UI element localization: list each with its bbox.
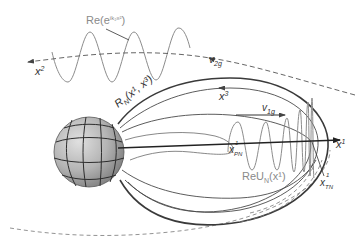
plane-wave-leader [106,29,129,40]
turning-point-left-sup: 1 [235,140,238,146]
mode-wave-label: ReUN(x¹) [242,170,286,184]
x2-axis-dashed [28,53,355,95]
globe-icon [54,117,124,187]
v2g-label: v2g [209,54,222,68]
ray-second-top [120,88,318,212]
turning-point-right-sup: 1 [326,172,329,178]
x1-axis-label: x1 [335,138,346,150]
ray-surface-label: RN(x¹, x³) [112,72,156,111]
plane-wave-label: Re(eik₂x²) [86,14,125,26]
turning-point-right-label: xTN [319,177,334,190]
x3-axis-label: x3 [218,90,229,102]
ray-lower-inner [122,160,316,198]
waveguide-diagram: Re(eik₂x²) x2 v2g x3 v1g RN(x¹, x³) x1 x… [0,0,357,250]
v1g-label: v1g [262,102,275,116]
x2-axis-label: x2 [34,65,45,77]
ray-third [122,114,311,212]
